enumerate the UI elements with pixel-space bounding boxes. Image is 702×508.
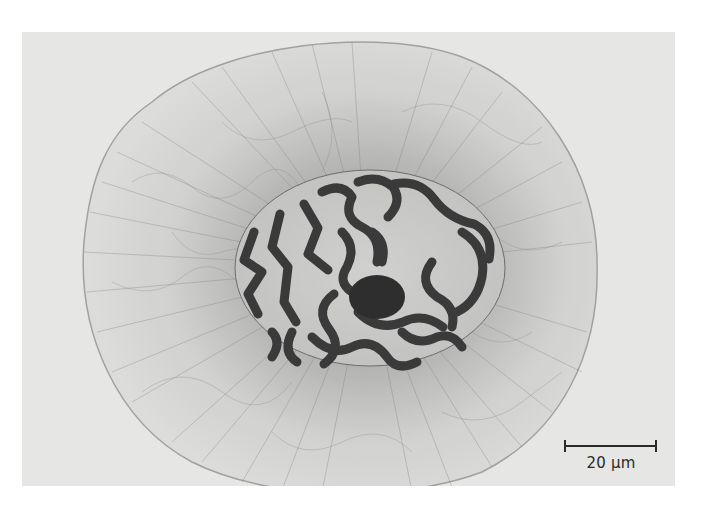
micrograph-frame: 20 µm — [22, 32, 675, 486]
scale-bar-tick-right — [655, 440, 657, 452]
scale-bar: 20 µm — [564, 440, 658, 480]
scale-bar-tick-left — [564, 440, 566, 452]
scale-bar-label: 20 µm — [564, 454, 658, 472]
cell-micrograph — [22, 32, 675, 486]
scale-bar-line — [564, 445, 656, 447]
nucleolus — [349, 275, 405, 319]
